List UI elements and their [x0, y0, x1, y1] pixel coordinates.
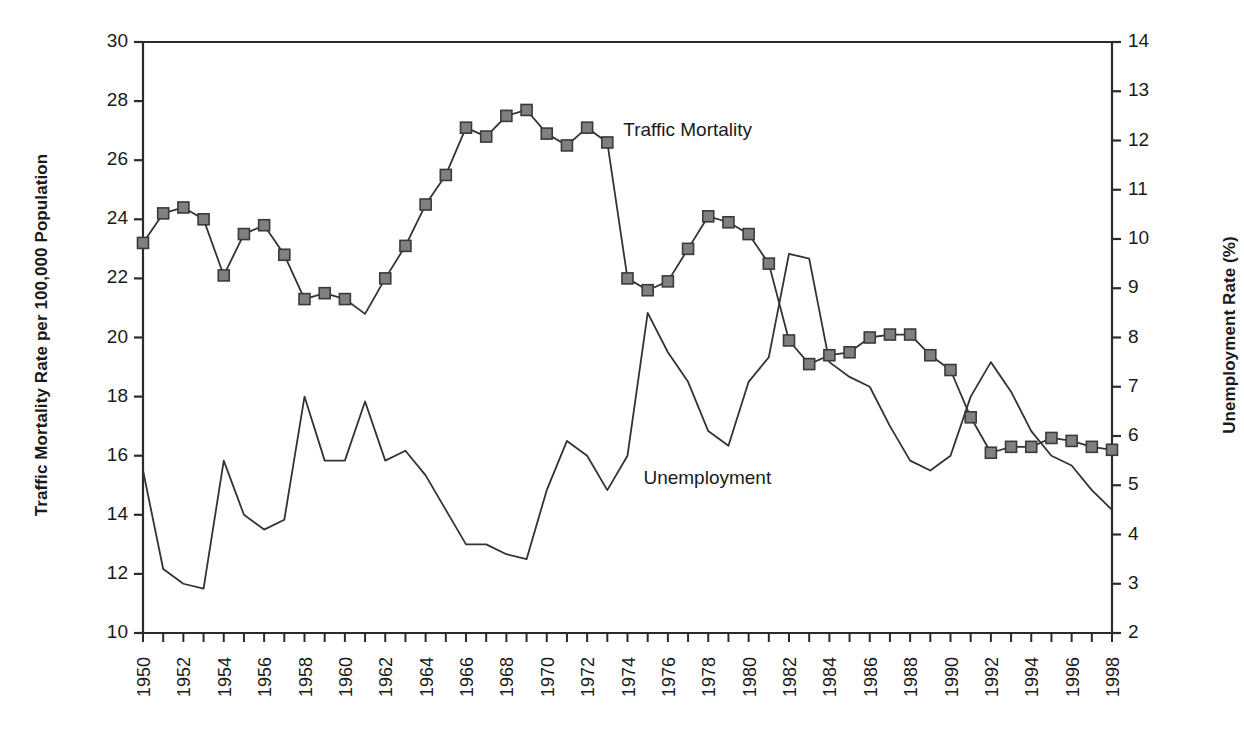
data-point-marker [481, 131, 492, 142]
x-axis-tick-label: 1980 [740, 657, 761, 697]
data-point-marker [723, 217, 734, 228]
data-point-marker [400, 240, 411, 251]
y-axis-right-tick-label: 12 [1128, 129, 1176, 151]
data-point-marker [945, 365, 956, 376]
chart-figure: Traffic Mortality Rate per 100,000 Popul… [0, 0, 1244, 741]
data-point-marker [743, 229, 754, 240]
data-point-marker [1046, 432, 1057, 443]
annotation-traffic-mortality: Traffic Mortality [623, 119, 752, 141]
x-axis-tick-label: 1962 [376, 657, 397, 697]
y-axis-left-tick-label: 16 [80, 444, 128, 466]
data-point-marker [319, 288, 330, 299]
x-axis-tick-label: 1968 [497, 657, 518, 697]
data-point-marker [238, 229, 249, 240]
y-axis-left-tick-label: 28 [80, 89, 128, 111]
x-axis-tick-label: 1970 [538, 657, 559, 697]
y-axis-right-tick-label: 8 [1128, 326, 1176, 348]
data-point-marker [1107, 444, 1118, 455]
data-point-marker [521, 104, 532, 115]
data-point-marker [905, 329, 916, 340]
y-axis-right-tick-label: 9 [1128, 276, 1176, 298]
x-axis-tick-label: 1998 [1103, 657, 1124, 697]
x-axis-tick-label: 1992 [982, 657, 1003, 697]
data-point-marker [985, 447, 996, 458]
x-axis-tick-label: 1990 [942, 657, 963, 697]
data-point-marker [339, 294, 350, 305]
data-point-marker [965, 412, 976, 423]
data-point-marker [198, 214, 209, 225]
x-axis-tick-label: 1988 [901, 657, 922, 697]
y-axis-right-tick-label: 6 [1128, 424, 1176, 446]
x-axis-tick-label: 1972 [578, 657, 599, 697]
data-point-marker [884, 329, 895, 340]
y-axis-left-tick-label: 10 [80, 621, 128, 643]
data-point-marker [642, 285, 653, 296]
y-axis-right-tick-label: 11 [1128, 178, 1176, 200]
data-point-marker [763, 258, 774, 269]
y-axis-right-tick-label: 13 [1128, 79, 1176, 101]
y-axis-left-tick-label: 22 [80, 266, 128, 288]
data-point-marker [1026, 441, 1037, 452]
x-axis-tick-label: 1956 [255, 657, 276, 697]
plot-area [0, 0, 1244, 741]
y-axis-right-tick-label: 7 [1128, 375, 1176, 397]
x-axis-tick-label: 1976 [659, 657, 680, 697]
y-axis-left-tick-label: 20 [80, 326, 128, 348]
series-markers-traffic-mortality [138, 104, 1118, 458]
y-axis-right-tick-label: 14 [1128, 30, 1176, 52]
data-point-marker [420, 199, 431, 210]
y-axis-right-tick-label: 10 [1128, 227, 1176, 249]
data-point-marker [804, 359, 815, 370]
x-axis-tick-label: 1974 [619, 657, 640, 697]
x-axis-tick-label: 1958 [296, 657, 317, 697]
data-point-marker [622, 273, 633, 284]
y-axis-left-ticks [134, 42, 143, 633]
data-point-marker [683, 243, 694, 254]
data-point-marker [844, 347, 855, 358]
y-axis-left-tick-label: 18 [80, 385, 128, 407]
data-point-marker [138, 237, 149, 248]
y-axis-right-tick-label: 3 [1128, 572, 1176, 594]
x-axis-tick-label: 1964 [417, 657, 438, 697]
y-axis-left-tick-label: 24 [80, 207, 128, 229]
y-axis-left-tick-label: 30 [80, 30, 128, 52]
data-point-marker [440, 169, 451, 180]
data-point-marker [662, 276, 673, 287]
x-axis-tick-label: 1996 [1063, 657, 1084, 697]
y-axis-left-tick-label: 12 [80, 562, 128, 584]
x-axis-tick-label: 1982 [780, 657, 801, 697]
y-axis-right-tick-label: 4 [1128, 523, 1176, 545]
x-axis-ticks [143, 633, 1112, 642]
y-axis-right-tick-label: 2 [1128, 621, 1176, 643]
x-axis-tick-label: 1994 [1022, 657, 1043, 697]
x-axis-tick-label: 1952 [174, 657, 195, 697]
data-point-marker [582, 122, 593, 133]
data-point-marker [561, 140, 572, 151]
x-axis-tick-label: 1950 [134, 657, 155, 697]
data-point-marker [1086, 441, 1097, 452]
y-axis-left-tick-label: 14 [80, 503, 128, 525]
data-point-marker [541, 128, 552, 139]
data-point-marker [380, 273, 391, 284]
y-axis-left-tick-label: 26 [80, 148, 128, 170]
data-point-marker [279, 249, 290, 260]
x-axis-tick-label: 1984 [820, 657, 841, 697]
data-point-marker [461, 122, 472, 133]
y-axis-right-tick-label: 5 [1128, 473, 1176, 495]
data-point-marker [784, 335, 795, 346]
data-point-marker [824, 350, 835, 361]
x-axis-tick-label: 1966 [457, 657, 478, 697]
data-point-marker [218, 270, 229, 281]
data-point-marker [925, 350, 936, 361]
x-axis-tick-label: 1954 [215, 657, 236, 697]
data-point-marker [703, 211, 714, 222]
data-point-marker [1006, 441, 1017, 452]
x-axis-tick-label: 1978 [699, 657, 720, 697]
data-point-marker [158, 208, 169, 219]
data-point-marker [1066, 435, 1077, 446]
x-axis-tick-label: 1960 [336, 657, 357, 697]
data-point-marker [259, 220, 270, 231]
data-point-marker [864, 332, 875, 343]
x-axis-tick-label: 1986 [861, 657, 882, 697]
annotation-unemployment: Unemployment [643, 467, 771, 489]
